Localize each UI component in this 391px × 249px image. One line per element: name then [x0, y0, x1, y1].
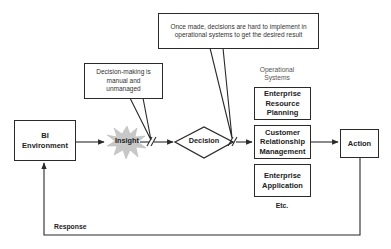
node-bi-environment-label: BI Environment [21, 131, 69, 150]
node-action: Action [340, 129, 379, 158]
operational-systems-label: Operational Systems [252, 66, 302, 82]
callout-once-made-text: Once made, decisions are hard to impleme… [167, 23, 310, 40]
etc-label: Etc. [262, 202, 302, 210]
node-insight-label: Insight [104, 137, 150, 146]
node-enterprise-application-label: Enterprise Application [259, 171, 306, 190]
callout-decision-making: Decision-making is manual and unmanaged [84, 63, 163, 99]
node-erp-label: Enterprise Resource Planning [258, 89, 307, 117]
node-action-label: Action [348, 139, 371, 148]
edge-response-label: Response [54, 223, 96, 231]
node-crm: Customer Relationship Management [254, 125, 311, 159]
callout-once-made: Once made, decisions are hard to impleme… [158, 13, 319, 49]
node-crm-label: Customer Relationship Management [257, 128, 308, 156]
node-decision-label: Decision [180, 137, 228, 146]
callout-decision-making-text: Decision-making is manual and unmanaged [89, 68, 158, 93]
node-erp: Enterprise Resource Planning [254, 87, 311, 120]
node-bi-environment: BI Environment [14, 120, 76, 161]
callout-once-made-pointer [210, 48, 232, 138]
node-enterprise-application: Enterprise Application [254, 164, 311, 197]
